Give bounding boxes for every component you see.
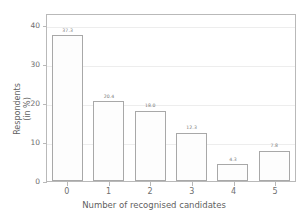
bar-slot: 20.4 — [88, 15, 129, 181]
x-tick-mark — [192, 182, 193, 186]
bar — [176, 133, 207, 181]
x-tick-label: 5 — [265, 188, 285, 196]
x-tick-mark — [234, 182, 235, 186]
bar-slot: 12.3 — [171, 15, 212, 181]
x-tick-mark — [150, 182, 151, 186]
bar-slot: 7.8 — [254, 15, 295, 181]
bar-value-label: 7.8 — [254, 144, 295, 149]
x-tick-mark — [275, 182, 276, 186]
bar-value-label: 18.0 — [130, 104, 171, 109]
y-tick-label: 30 — [16, 61, 40, 68]
y-tick-mark — [43, 182, 47, 183]
y-tick-label: 10 — [16, 139, 40, 147]
bar — [259, 151, 290, 181]
plot-area: 37.320.418.012.34.37.8 — [46, 14, 296, 182]
bar — [93, 101, 124, 181]
bar-value-label: 20.4 — [88, 95, 129, 100]
bar-slot: 37.3 — [47, 15, 88, 181]
x-tick-label: 2 — [140, 188, 160, 196]
bar-value-label: 12.3 — [171, 126, 212, 131]
x-axis-title: Number of recognised candidates — [0, 200, 308, 210]
bar-chart-figure: Respondents (in %) 010203040 37.320.418.… — [0, 0, 308, 217]
y-tick-label: 20 — [16, 100, 40, 108]
x-tick-mark — [109, 182, 110, 186]
bar — [217, 164, 248, 181]
x-tick-label: 3 — [182, 188, 202, 196]
x-tick-mark — [67, 182, 68, 186]
bar-value-label: 37.3 — [47, 29, 88, 34]
bar-value-label: 4.3 — [212, 158, 253, 163]
x-tick-label: 1 — [99, 188, 119, 196]
bar — [135, 111, 166, 181]
bar-slot: 18.0 — [130, 15, 171, 181]
bar-slot: 4.3 — [212, 15, 253, 181]
y-tick-label: 40 — [16, 22, 40, 30]
y-axis-title-line1: Respondents — [13, 83, 22, 135]
x-tick-label: 0 — [57, 188, 77, 196]
y-tick-label: 0 — [16, 178, 40, 186]
x-tick-label: 4 — [224, 188, 244, 196]
bar — [52, 35, 83, 181]
bar-series: 37.320.418.012.34.37.8 — [47, 15, 295, 181]
